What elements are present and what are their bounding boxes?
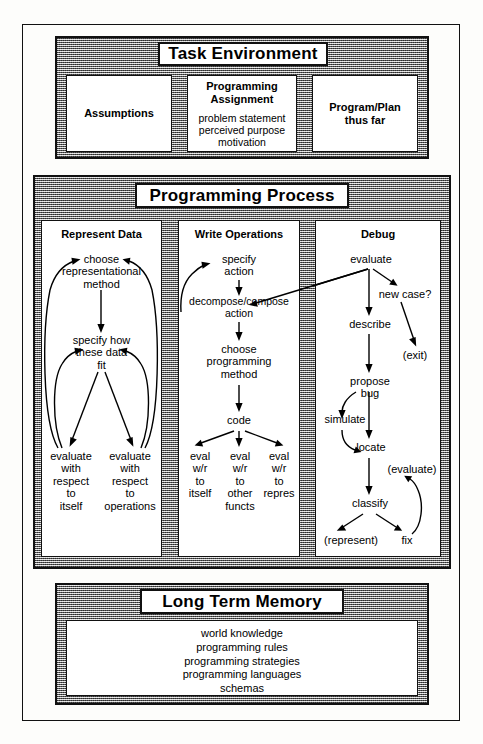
node-eval-wr-to-itself: eval w/r to itself	[180, 450, 220, 500]
node-choose-programming-method: choose programming method	[196, 343, 282, 380]
node-evaluate-with-respect-to-itself: evaluate with respect to itself	[44, 450, 98, 512]
node-describe: describe	[339, 318, 401, 330]
node-classify: classify	[342, 497, 398, 509]
node-evaluate: evaluate	[340, 253, 402, 265]
node-evaluate-with-respect-to-operations: evaluate with respect to operations	[101, 450, 159, 512]
node-propose-bug: propose bug	[338, 375, 402, 400]
column-debug-title: Debug	[315, 228, 441, 240]
node-evaluate-paren: (evaluate)	[383, 463, 441, 475]
diagram-page: Task Environment Assumptions Programming…	[0, 0, 483, 744]
task-env-box-program-plan-title: Program/Plan thus far	[312, 101, 418, 126]
column-represent-data-title: Represent Data	[41, 228, 162, 240]
task-env-box-programming-assignment-title: Programming Assignment	[187, 80, 297, 105]
node-simulate: simulate	[316, 413, 374, 425]
programming-process-heading: Programming Process	[135, 183, 349, 208]
node-eval-wr-to-repres: eval w/r to repres	[258, 450, 300, 500]
node-specify-how-these-data-fit: specify how these data fit	[55, 334, 148, 371]
long-term-memory-heading: Long Term Memory	[140, 589, 344, 614]
node-locate: locate	[345, 441, 397, 453]
node-eval-wr-to-other-functs: eval w/r to other functs	[220, 450, 260, 512]
node-choose-representational-method: choose representational method	[45, 253, 158, 290]
task-env-box-assumptions-title: Assumptions	[66, 107, 172, 120]
node-decompose-compose-action: decompose/compose action	[178, 296, 300, 320]
long-term-memory-items: world knowledge programming rules progra…	[66, 627, 418, 696]
node-specify-action: specify action	[207, 253, 271, 278]
node-exit: (exit)	[393, 349, 437, 361]
node-code: code	[211, 414, 267, 426]
node-fix: fix	[392, 534, 422, 546]
task-env-box-programming-assignment-lines: problem statement perceived purpose moti…	[187, 112, 297, 148]
node-new-case: new case?	[372, 288, 438, 300]
task-environment-heading: Task Environment	[158, 42, 328, 66]
column-write-operations-title: Write Operations	[178, 228, 300, 240]
node-represent-paren: (represent)	[316, 534, 386, 546]
